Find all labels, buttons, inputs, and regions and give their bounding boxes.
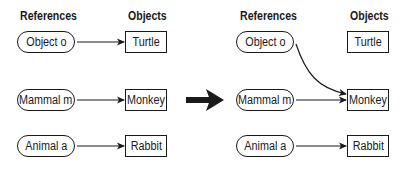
references-header-right: References (240, 9, 297, 23)
object-rabbit: Rabbit (125, 135, 167, 157)
references-header: References (20, 9, 77, 23)
object-turtle-right: Turtle (347, 31, 389, 53)
reference-animal-a-right: Animal a (236, 135, 294, 157)
objects-header: Objects (128, 9, 167, 23)
right-arrow-icon (186, 89, 224, 111)
object-turtle: Turtle (125, 31, 167, 53)
arrow-object-to-monkey (296, 44, 346, 94)
object-rabbit-right: Rabbit (347, 135, 389, 157)
reference-object-o-right: Object o (236, 31, 294, 53)
reference-mammal-m-right: Mammal m (236, 89, 294, 111)
reference-object-o: Object o (17, 31, 75, 53)
object-monkey-right: Monkey (347, 89, 389, 111)
objects-header-right: Objects (350, 9, 389, 23)
reference-mammal-m: Mammal m (17, 89, 75, 111)
reference-animal-a: Animal a (17, 135, 75, 157)
object-monkey: Monkey (125, 89, 167, 111)
